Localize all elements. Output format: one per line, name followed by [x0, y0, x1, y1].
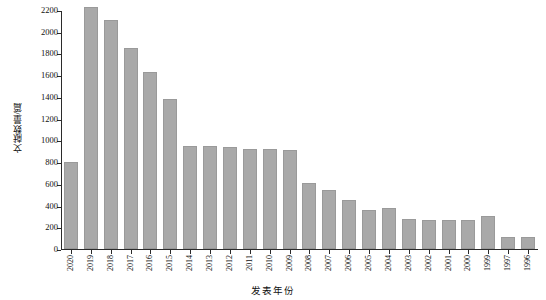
bar: [481, 216, 495, 249]
y-axis-tick-label: 2000: [41, 27, 58, 38]
x-axis-tick-label: 2000: [464, 255, 472, 271]
x-axis-tick-label: 1996: [524, 255, 532, 271]
x-axis-tick-label: 2006: [345, 255, 353, 271]
bar: [223, 147, 237, 249]
bar: [243, 149, 257, 249]
bar: [84, 7, 98, 249]
bar: [402, 219, 416, 249]
bar: [461, 220, 475, 249]
bar: [283, 150, 297, 249]
bar: [203, 146, 217, 249]
x-axis-tick-label: 2018: [107, 255, 115, 271]
bar: [342, 200, 356, 249]
x-axis-tick-label: 2012: [226, 255, 234, 271]
bar: [521, 237, 535, 249]
x-axis-tick-label: 2015: [166, 255, 174, 271]
plot-area: 0200400600800100012001400160018002000220…: [61, 11, 538, 250]
y-axis-tick-label: 1800: [41, 48, 58, 59]
x-axis-tick-label: 2005: [365, 255, 373, 271]
y-axis-tick-label: 600: [45, 179, 58, 190]
y-axis-tick-label: 2200: [41, 5, 58, 16]
y-axis-tick-label: 1000: [41, 135, 58, 146]
x-axis-tick-label: 1997: [504, 255, 512, 271]
bar: [183, 146, 197, 249]
x-axis-tick-label: 2017: [127, 255, 135, 271]
y-axis-tick-label: 1400: [41, 92, 58, 103]
x-axis-tick-label: 2016: [146, 255, 154, 271]
x-axis-tick-label: 1999: [484, 255, 492, 271]
y-axis-title-text: 文献数量/篇: [13, 102, 22, 153]
x-axis-tick-label: 2002: [425, 255, 433, 271]
y-axis-tick-label: 800: [45, 157, 58, 168]
x-axis-tick-label: 2014: [186, 255, 194, 271]
x-axis-tick-labels: 2020201920182017201620152014201320122011…: [61, 251, 538, 285]
y-axis-tick-label: 400: [45, 201, 58, 212]
bar: [302, 183, 316, 249]
bar-chart: 文献数量/篇 020040060080010001200140016001800…: [0, 0, 546, 300]
x-axis-tick-label: 2004: [385, 255, 393, 271]
x-axis-tick-label: 2011: [246, 255, 254, 271]
bar: [442, 220, 456, 249]
x-axis-tick-label: 2001: [445, 255, 453, 271]
y-axis-tick-label: 0: [54, 244, 58, 255]
bar: [124, 48, 138, 249]
x-axis-tick-label: 2009: [286, 255, 294, 271]
bar: [64, 162, 78, 249]
x-axis-tick-label: 2020: [67, 255, 75, 271]
x-axis-tick-label: 2003: [405, 255, 413, 271]
y-axis-line: [61, 11, 62, 250]
y-axis-tick-label: 1200: [41, 114, 58, 125]
x-axis-line: [61, 249, 538, 250]
x-axis-tick-label: 2010: [266, 255, 274, 271]
bar: [322, 190, 336, 249]
y-axis-tick-label: 1600: [41, 70, 58, 81]
y-axis-tick-label: 200: [45, 222, 58, 233]
x-axis-tick-label: 2013: [206, 255, 214, 271]
bar: [382, 208, 396, 249]
bar: [362, 210, 376, 249]
y-axis-title: 文献数量/篇: [8, 0, 26, 255]
bar: [104, 20, 118, 249]
bar: [422, 220, 436, 249]
bar: [263, 149, 277, 249]
bar: [501, 237, 515, 249]
x-axis-tick-label: 2019: [87, 255, 95, 271]
x-axis-tick-label: 2007: [325, 255, 333, 271]
x-axis-title: 发表年份: [0, 283, 546, 297]
bar: [163, 99, 177, 249]
x-axis-tick-label: 2008: [305, 255, 313, 271]
bar: [143, 72, 157, 249]
